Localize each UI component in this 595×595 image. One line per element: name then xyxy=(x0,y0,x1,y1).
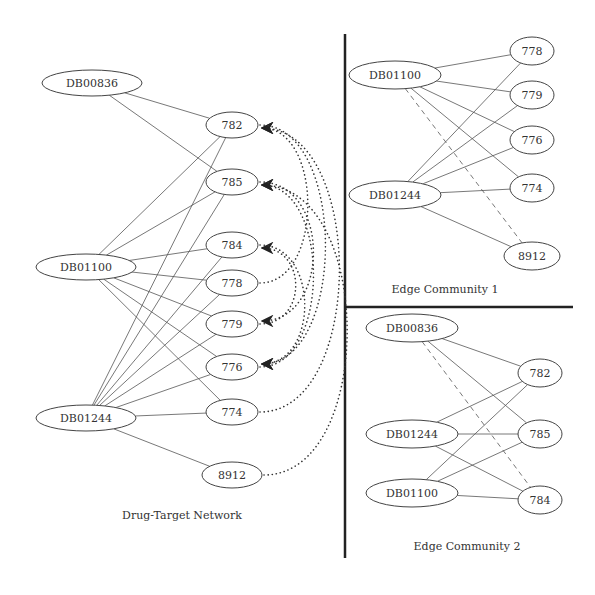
edge-DB01100-776 xyxy=(420,87,515,132)
drug-node-DB01244: DB01244 xyxy=(366,420,458,448)
node-label: 779 xyxy=(522,89,543,102)
edge-DB01244-779 xyxy=(105,334,216,406)
edge-DB01244-8912 xyxy=(114,429,210,466)
drug-node-DB00836: DB00836 xyxy=(42,70,142,96)
dashed-edge-DB00836-784 xyxy=(422,342,530,488)
edge-DB01100-785 xyxy=(437,442,522,481)
drug-node-DB01100: DB01100 xyxy=(349,61,441,89)
drug-node-DB01100: DB01100 xyxy=(36,254,136,280)
target-node-774: 774 xyxy=(510,174,554,202)
node-label: 784 xyxy=(222,239,243,252)
node-label: 778 xyxy=(222,277,243,290)
dotted-arc-785-779 xyxy=(260,182,313,321)
community2-edges xyxy=(422,339,530,499)
edge-DB00836-782 xyxy=(442,339,521,367)
drug-node-DB00836: DB00836 xyxy=(366,314,458,342)
target-node-8912: 8912 xyxy=(202,462,262,488)
node-label: 774 xyxy=(222,406,243,419)
community1-caption: Edge Community 1 xyxy=(392,283,499,296)
edge-DB01244-776 xyxy=(116,374,211,407)
node-label: 782 xyxy=(530,367,551,380)
edge-community-1-panel: DB01100DB012447787797767748912 Edge Comm… xyxy=(349,37,560,296)
node-label: DB01100 xyxy=(369,69,421,82)
target-node-776: 776 xyxy=(510,126,554,154)
target-node-778: 778 xyxy=(510,37,554,65)
target-node-778: 778 xyxy=(206,270,258,296)
node-label: 8912 xyxy=(218,469,246,482)
edge-DB00836-782 xyxy=(125,93,210,118)
target-node-785: 785 xyxy=(518,420,562,448)
node-label: DB00836 xyxy=(66,77,118,90)
node-label: 776 xyxy=(222,361,243,374)
drug-node-DB01100: DB01100 xyxy=(366,479,458,507)
edge-DB01244-785 xyxy=(94,194,224,405)
dotted-arc-774-782 xyxy=(260,128,339,412)
edge-community-2-panel: DB00836DB01244DB01100782785784 Edge Comm… xyxy=(366,314,562,553)
node-label: DB00836 xyxy=(386,322,438,335)
edge-DB01100-785 xyxy=(106,192,215,255)
panel-dividers xyxy=(345,34,573,558)
edge-DB01244-774 xyxy=(135,413,206,416)
drug-target-network-panel: DB00836DB01100DB012447827857847787797767… xyxy=(36,70,347,522)
main-nodes: DB00836DB01100DB012447827857847787797767… xyxy=(36,70,262,488)
edge-DB01100-779 xyxy=(114,278,212,316)
edge-DB01244-778 xyxy=(100,294,220,405)
node-label: 778 xyxy=(522,45,543,58)
diagram-canvas: DB00836DB01100DB012447827857847787797767… xyxy=(0,0,595,595)
edge-DB01100-782 xyxy=(99,137,220,255)
target-node-782: 782 xyxy=(206,112,258,138)
dotted-arc-779-784 xyxy=(260,248,296,324)
main-caption: Drug-Target Network xyxy=(122,509,242,522)
edge-DB00836-785 xyxy=(109,95,217,171)
drug-node-DB01244: DB01244 xyxy=(36,405,136,431)
main-dotted-arcs xyxy=(260,125,347,475)
edge-DB01244-8912 xyxy=(421,207,511,247)
node-label: 779 xyxy=(222,318,243,331)
dotted-arc-784-776 xyxy=(260,245,305,364)
edge-DB01244-774 xyxy=(440,189,510,193)
node-label: 774 xyxy=(522,182,543,195)
edge-DB01100-784 xyxy=(129,249,207,261)
node-label: 8912 xyxy=(518,250,546,263)
community2-nodes: DB00836DB01244DB01100782785784 xyxy=(366,314,562,514)
target-node-785: 785 xyxy=(206,169,258,195)
target-node-776: 776 xyxy=(206,354,258,380)
drug-node-DB01244: DB01244 xyxy=(349,181,441,209)
target-node-784: 784 xyxy=(518,486,562,514)
target-node-782: 782 xyxy=(518,359,562,387)
edge-DB01100-774 xyxy=(411,88,519,177)
edge-DB01100-778 xyxy=(435,55,511,68)
target-node-779: 779 xyxy=(206,311,258,337)
node-label: 782 xyxy=(222,119,243,132)
edge-DB01100-779 xyxy=(436,81,510,92)
node-label: DB01100 xyxy=(386,487,438,500)
node-label: DB01244 xyxy=(369,189,421,202)
node-label: DB01100 xyxy=(60,261,112,274)
community2-caption: Edge Community 2 xyxy=(414,540,521,553)
node-label: DB01244 xyxy=(60,412,112,425)
edge-DB01244-779 xyxy=(413,106,518,183)
edge-DB01100-774 xyxy=(99,280,221,401)
edge-DB00836-785 xyxy=(428,341,527,423)
node-label: DB01244 xyxy=(386,428,438,441)
edge-DB01244-776 xyxy=(423,147,514,183)
node-label: 785 xyxy=(530,428,551,441)
edge-DB01100-778 xyxy=(132,272,207,280)
node-label: 784 xyxy=(530,494,551,507)
node-label: 776 xyxy=(522,134,543,147)
target-node-779: 779 xyxy=(510,81,554,109)
target-node-784: 784 xyxy=(206,232,258,258)
dotted-arc-782-776 xyxy=(260,125,325,364)
target-node-8912: 8912 xyxy=(504,242,560,270)
edge-DB01100-784 xyxy=(457,495,518,498)
target-node-774: 774 xyxy=(206,399,258,425)
node-label: 785 xyxy=(222,176,243,189)
